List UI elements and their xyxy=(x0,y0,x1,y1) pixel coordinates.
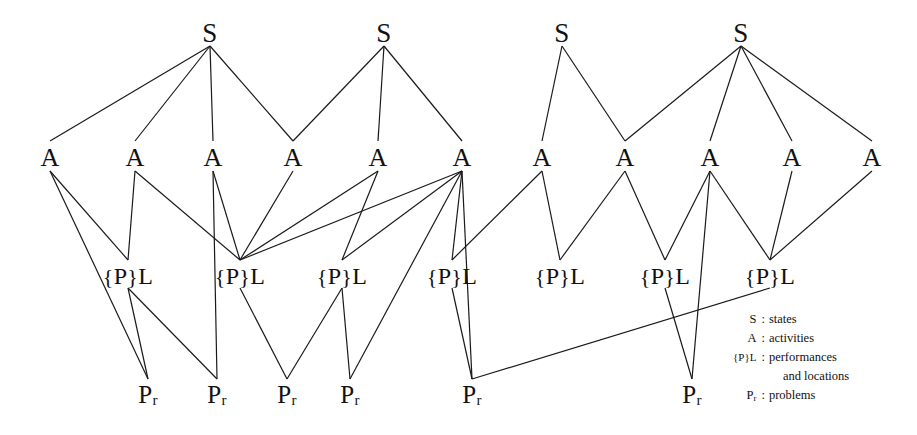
edge-pl6-pr6 xyxy=(665,288,692,379)
legend-colon xyxy=(761,367,768,386)
node-pr1: Pr xyxy=(138,382,158,409)
edge-s4-a9 xyxy=(710,46,741,141)
edge-a6-pl2 xyxy=(240,171,462,260)
edge-s4-a8 xyxy=(625,46,741,141)
node-a4: A xyxy=(283,145,302,171)
legend-row: Pr:problems xyxy=(733,386,849,405)
edge-a2-pl1 xyxy=(128,171,135,260)
node-s1: S xyxy=(202,20,217,47)
node-a5: A xyxy=(368,145,387,171)
edge-s2-a5 xyxy=(378,46,384,141)
legend-symbol: S xyxy=(733,310,761,329)
edge-pl4-pr5 xyxy=(452,288,472,379)
edge-a10-pl7 xyxy=(770,171,792,260)
edge-pl3-pr3 xyxy=(287,288,342,379)
legend-description: activities xyxy=(769,329,849,348)
node-a11: A xyxy=(862,145,881,171)
node-pl6: {P}L xyxy=(640,264,690,288)
node-a10: A xyxy=(782,145,801,171)
edge-s4-a11 xyxy=(741,46,872,141)
edge-a4-pl2 xyxy=(240,171,293,260)
node-a9: A xyxy=(700,145,719,171)
legend: S:statesA:activities{P}L:performancesand… xyxy=(733,310,849,405)
edge-a11-pl7 xyxy=(770,171,872,260)
edge-a8-pl6 xyxy=(625,171,665,260)
legend-row: S:states xyxy=(733,310,849,329)
legend-symbol: Pr xyxy=(733,386,761,405)
node-a1: A xyxy=(40,145,59,171)
edge-pl2-pr3 xyxy=(240,288,287,379)
legend-description: states xyxy=(769,310,849,329)
edge-s1-a1 xyxy=(50,46,210,141)
node-s3: S xyxy=(554,20,569,47)
edge-s1-a3 xyxy=(210,46,213,141)
edge-s2-a4 xyxy=(293,46,384,141)
node-a7: A xyxy=(532,145,551,171)
edge-a9-pl7 xyxy=(710,171,770,260)
edge-s3-a7 xyxy=(542,46,562,141)
edge-s1-a4 xyxy=(210,46,293,141)
node-pl3: {P}L xyxy=(317,264,367,288)
node-a3: A xyxy=(203,145,222,171)
legend-colon: : xyxy=(761,348,768,367)
legend-symbol: A xyxy=(733,329,761,348)
node-pl5: {P}L xyxy=(535,264,585,288)
legend-row: and locations xyxy=(733,367,849,386)
legend-symbol: {P}L xyxy=(733,348,761,367)
edge-a5-pl2 xyxy=(240,171,378,260)
edge-a8-pl5 xyxy=(560,171,625,260)
edge-a7-pl4 xyxy=(452,171,542,260)
legend-table: S:statesA:activities{P}L:performancesand… xyxy=(733,310,849,405)
edge-a7-pl5 xyxy=(542,171,560,260)
node-pr5: Pr xyxy=(462,382,482,409)
node-a8: A xyxy=(615,145,634,171)
edge-s3-a8 xyxy=(562,46,625,141)
edge-a1-pl1 xyxy=(50,171,128,260)
legend-colon: : xyxy=(761,329,768,348)
node-s2: S xyxy=(376,20,391,47)
edge-s2-a6 xyxy=(384,46,462,141)
node-pl4: {P}L xyxy=(427,264,477,288)
node-pr6: Pr xyxy=(682,382,702,409)
node-pr3: Pr xyxy=(277,382,297,409)
legend-row: {P}L:performances xyxy=(733,348,849,367)
edge-pl3-pr4 xyxy=(342,288,350,379)
legend-description: performances xyxy=(769,348,849,367)
legend-colon: : xyxy=(761,386,768,405)
edge-s1-a2 xyxy=(135,46,210,141)
node-a2: A xyxy=(125,145,144,171)
node-pl2: {P}L xyxy=(215,264,265,288)
edge-a6-pl4 xyxy=(452,171,462,260)
diagram-canvas: SSSSAAAAAAAAAAA{P}L{P}L{P}L{P}L{P}L{P}L{… xyxy=(0,0,917,435)
edge-s4-a10 xyxy=(741,46,792,141)
edge-pl1-pr1 xyxy=(128,288,148,379)
node-pr4: Pr xyxy=(340,382,360,409)
legend-colon: : xyxy=(761,310,768,329)
node-s4: S xyxy=(733,20,748,47)
node-pl1: {P}L xyxy=(103,264,153,288)
node-pl7: {P}L xyxy=(745,264,795,288)
legend-description: and locations xyxy=(769,367,849,386)
node-pr2: Pr xyxy=(207,382,227,409)
node-a6: A xyxy=(452,145,471,171)
legend-description: problems xyxy=(769,386,849,405)
legend-row: A:activities xyxy=(733,329,849,348)
edge-pl7-pr5 xyxy=(472,288,770,379)
edge-a2-pl2 xyxy=(135,171,240,260)
edge-a3-pl2 xyxy=(213,171,240,260)
legend-symbol xyxy=(733,367,761,386)
